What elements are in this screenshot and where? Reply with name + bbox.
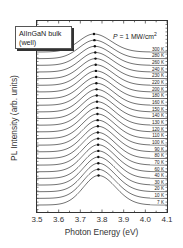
- peak-marker: [97, 174, 99, 176]
- spectrum-curve: [37, 163, 167, 191]
- temperature-label: 100 K: [152, 140, 165, 145]
- legend-line-2: (well): [19, 38, 68, 47]
- peak-marker: [97, 168, 99, 170]
- temperature-label: 140 K: [152, 113, 165, 118]
- temperature-label: 160 K: [152, 100, 165, 105]
- spectrum-curve: [37, 52, 167, 71]
- temperature-label: 200 K: [152, 87, 165, 92]
- temperature-label: 120 K: [152, 127, 165, 132]
- x-tick-label: 3.8: [96, 215, 108, 224]
- x-tick-label: 4.0: [140, 215, 152, 224]
- peak-marker: [95, 76, 97, 78]
- temperature-label: 130 K: [152, 120, 165, 125]
- peak-marker: [95, 70, 97, 72]
- x-axis-label: Photon Energy (eV): [0, 227, 183, 237]
- peak-marker: [97, 150, 99, 152]
- y-axis-label-text: PL Intensity (arb. units): [9, 75, 19, 161]
- temperature-label: 260 K: [152, 60, 165, 65]
- x-tick-labels: 3.53.63.73.83.94.04.1: [31, 215, 173, 224]
- peak-marker: [93, 39, 95, 41]
- plot-frame: [37, 21, 168, 213]
- x-tick-label: 3.9: [118, 215, 130, 224]
- legend-line-1: AlInGaN bulk: [19, 29, 68, 38]
- peak-marker: [95, 64, 97, 66]
- spectrum-curve: [37, 59, 167, 79]
- peak-marker: [96, 94, 98, 96]
- peak-marker: [95, 82, 97, 84]
- peak-marker: [94, 45, 96, 47]
- peak-marker: [96, 113, 98, 115]
- x-tick-label: 3.5: [31, 215, 43, 224]
- temperature-label: 80 K: [155, 153, 165, 158]
- peak-marker: [93, 33, 95, 35]
- spectrum-curve: [37, 83, 167, 105]
- peak-marker: [97, 144, 99, 146]
- spectrum-curve: [37, 71, 167, 92]
- power-density-annotation: P = 1 MW/cm2: [113, 31, 157, 40]
- temperature-label: 240 K: [152, 67, 165, 72]
- temperature-label: 40 K: [155, 173, 165, 178]
- peak-marker: [97, 156, 99, 158]
- temperature-label: 90 K: [155, 147, 165, 152]
- peak-marker: [96, 119, 98, 121]
- axis-ticks: [37, 21, 168, 213]
- x-tick-label: 3.6: [53, 215, 65, 224]
- temperature-label: 180 K: [152, 93, 165, 98]
- peak-marker: [97, 131, 99, 133]
- spectrum-curve: [37, 77, 167, 98]
- peak-marker: [96, 107, 98, 109]
- peak-marker: [97, 162, 99, 164]
- spectrum-curve: [37, 120, 167, 145]
- temperature-label: 70 K: [155, 160, 165, 165]
- peak-marker: [97, 137, 99, 139]
- temperature-label: 220 K: [152, 80, 165, 85]
- spectrum-curve: [37, 65, 167, 86]
- peak-marker: [95, 88, 97, 90]
- spectrum-curve: [37, 169, 167, 198]
- peak-marker: [96, 100, 98, 102]
- peak-marker: [97, 125, 99, 127]
- temperature-label: 110 K: [152, 133, 165, 138]
- temperature-label: 10 K: [155, 193, 165, 198]
- temperature-label: 280 K: [152, 53, 165, 58]
- temperature-labels: 300 K280 K260 K240 K230 K220 K200 K180 K…: [150, 46, 165, 204]
- temperature-label: 20 K: [155, 186, 165, 191]
- x-tick-label: 3.7: [75, 215, 87, 224]
- peak-marker: [94, 57, 96, 59]
- spectrum-curve: [37, 176, 167, 205]
- temperature-label: 30 K: [155, 180, 165, 185]
- temperature-label: 7 K: [157, 200, 165, 205]
- sample-legend-box: AlInGaN bulk (well): [15, 26, 72, 49]
- spectra-curves: [37, 33, 167, 205]
- temperature-label: 300 K: [152, 47, 165, 52]
- spectrum-curve: [37, 46, 167, 65]
- annot-text: = 1 MW/cm: [118, 33, 154, 40]
- peak-marker: [94, 51, 96, 53]
- temperature-label: 230 K: [152, 73, 165, 78]
- annot-sup: 2: [154, 31, 157, 37]
- temperature-label: 60 K: [155, 167, 165, 172]
- temperature-label: 150 K: [152, 107, 165, 112]
- x-tick-label: 4.1: [161, 215, 173, 224]
